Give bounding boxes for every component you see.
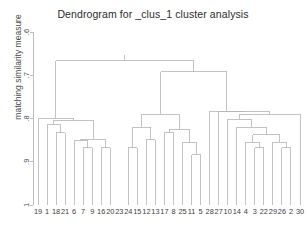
- leaf-label: 13: [151, 207, 159, 216]
- leaf-label: 17: [160, 207, 168, 216]
- leaf-label: 24: [124, 207, 132, 216]
- leaf-label: 2: [289, 207, 293, 216]
- y-tick-label: .9: [22, 159, 31, 165]
- leaf-label: 28: [206, 207, 214, 216]
- y-tick-label: 1: [22, 203, 31, 207]
- leaf-label: 20: [106, 207, 114, 216]
- leaf-label: 9: [90, 207, 94, 216]
- leaf-label: 15: [133, 207, 141, 216]
- leaf-label: 30: [296, 207, 304, 216]
- leaf-label: 22: [260, 207, 268, 216]
- leaf-label: 21: [61, 207, 69, 216]
- leaf-label: 27: [215, 207, 223, 216]
- leaf-label: 23: [115, 207, 123, 216]
- leaf-label: 18: [52, 207, 60, 216]
- leaf-label: 7: [81, 207, 85, 216]
- leaf-label: 8: [171, 207, 175, 216]
- leaf-label: 1: [45, 207, 49, 216]
- leaf-label: 11: [188, 207, 196, 216]
- leaf-label: 6: [72, 207, 76, 216]
- leaf-label: 12: [142, 207, 150, 216]
- leaf-label: 16: [97, 207, 105, 216]
- leaf-label: 25: [178, 207, 186, 216]
- leaf-label: 14: [233, 207, 241, 216]
- leaf-label: 5: [199, 207, 203, 216]
- y-tick-label: .8: [22, 115, 31, 121]
- dendrogram-canvas: .6.7.8.911911821679162023241512131782511…: [0, 0, 306, 235]
- y-tick-label: .6: [22, 29, 31, 35]
- dendrogram-plot: Dendrogram for _clus_1 cluster analysis …: [0, 0, 306, 235]
- leaf-label: 10: [224, 207, 232, 216]
- leaf-label: 4: [244, 207, 248, 216]
- y-tick-label: .7: [22, 72, 31, 78]
- leaf-label: 29: [269, 207, 277, 216]
- leaf-label: 3: [253, 207, 257, 216]
- leaf-label: 26: [278, 207, 286, 216]
- leaf-label: 19: [34, 207, 42, 216]
